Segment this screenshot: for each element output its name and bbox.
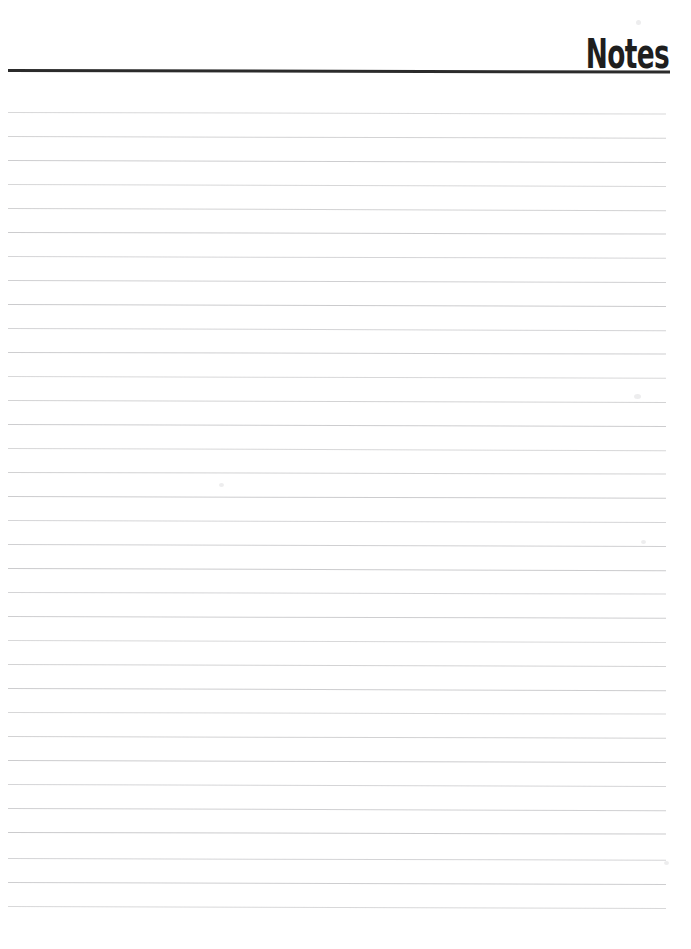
rule-line [8, 376, 666, 379]
ruled-writing-area[interactable] [0, 0, 691, 949]
scan-artifact [636, 20, 641, 25]
rule-line [8, 352, 666, 355]
rule-line [8, 136, 666, 139]
rule-line [8, 688, 666, 691]
scan-artifact [664, 861, 669, 865]
rule-line [8, 592, 666, 595]
rule-line [8, 208, 666, 211]
rule-line [8, 472, 666, 475]
rule-line [8, 544, 666, 547]
rule-line [8, 736, 666, 739]
rule-line [8, 160, 666, 163]
rule-line [8, 448, 666, 451]
rule-line [8, 400, 666, 403]
rule-line [8, 232, 666, 235]
rule-line [8, 906, 666, 909]
rule-line [8, 184, 666, 187]
rule-line [8, 424, 666, 427]
rule-line [8, 496, 666, 499]
rule-line [8, 808, 666, 811]
rule-line [8, 280, 666, 283]
rule-line [8, 760, 666, 763]
notes-page: Notes [0, 0, 691, 949]
rule-line [8, 784, 666, 787]
rule-line [8, 256, 666, 259]
scan-artifact [219, 483, 224, 487]
rule-line [8, 112, 666, 115]
rule-line [8, 328, 666, 331]
rule-line [8, 858, 666, 861]
rule-line [8, 832, 666, 835]
rule-line [8, 304, 666, 307]
rule-line [8, 882, 666, 885]
rule-line [8, 616, 666, 619]
rule-line [8, 640, 666, 643]
rule-line [8, 520, 666, 523]
scan-artifact [641, 540, 646, 544]
rule-line [8, 664, 666, 667]
rule-line [8, 568, 666, 571]
rule-line [8, 712, 666, 715]
scan-artifact [634, 394, 641, 399]
